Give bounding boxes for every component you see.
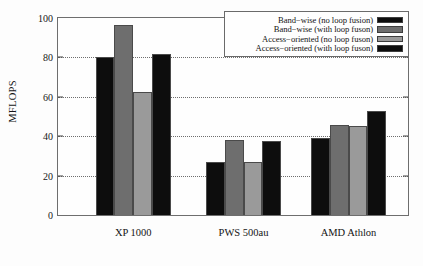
bar <box>114 25 133 215</box>
y-axis-label: MFLOPS <box>7 62 18 142</box>
y-axis-tick-label: 60 <box>43 91 53 102</box>
x-axis-tick-label: XP 1000 <box>96 227 171 238</box>
y-axis-tick-label: 100 <box>38 13 53 24</box>
y-axis-tick-mark <box>403 96 408 97</box>
bar <box>367 111 386 215</box>
bar <box>206 162 225 215</box>
y-axis-tick-mark <box>58 57 63 58</box>
bar <box>244 162 263 215</box>
y-axis-tick-mark <box>403 136 408 137</box>
bar-chart-figure: MFLOPS 020406080100XP 1000PWS 500auAMD A… <box>0 0 423 266</box>
bar-group: XP 1000 <box>96 18 171 215</box>
x-axis-tick-label: AMD Athlon <box>311 227 386 238</box>
legend-item: Band−wise (with loop fuson) <box>228 25 403 35</box>
legend-item: Access−oriented (no loop fuson) <box>228 34 403 44</box>
bar <box>96 57 115 215</box>
y-axis-tick-label: 0 <box>48 210 53 221</box>
legend-color-swatch <box>377 17 403 24</box>
bar <box>133 92 152 215</box>
y-axis-tick-mark <box>58 175 63 176</box>
bar <box>262 141 281 215</box>
legend-item: Band−wise (no loop fusion) <box>228 15 403 25</box>
bar <box>225 140 244 215</box>
legend-item: Access−oriented (with loop fuson) <box>228 44 403 54</box>
bar <box>311 138 330 215</box>
legend-item-label: Band−wise (no loop fusion) <box>278 15 373 25</box>
bar <box>152 54 171 215</box>
y-axis-tick-label: 80 <box>43 52 53 63</box>
bar-group-bars <box>96 18 171 215</box>
legend-color-swatch <box>377 36 403 43</box>
chart-legend: Band−wise (no loop fusion)Band−wise (wit… <box>224 11 409 57</box>
y-axis-tick-mark <box>58 96 63 97</box>
legend-item-label: Band−wise (with loop fuson) <box>274 24 373 34</box>
legend-color-swatch <box>377 26 403 33</box>
legend-item-label: Access−oriented (with loop fuson) <box>255 43 373 53</box>
y-axis-tick-mark <box>58 136 63 137</box>
legend-color-swatch <box>377 45 403 52</box>
bar <box>349 126 368 215</box>
y-axis-tick-label: 20 <box>43 170 53 181</box>
y-axis-tick-label: 40 <box>43 131 53 142</box>
x-axis-tick-label: PWS 500au <box>206 227 281 238</box>
y-axis-tick-mark <box>403 57 408 58</box>
y-axis-tick-mark <box>403 175 408 176</box>
bar <box>330 125 349 215</box>
legend-item-label: Access−oriented (no loop fuson) <box>262 34 373 44</box>
